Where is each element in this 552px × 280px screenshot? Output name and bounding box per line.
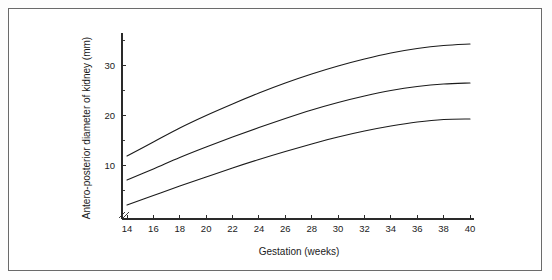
y-tick-label: 20 bbox=[104, 110, 115, 121]
chart-curves bbox=[127, 44, 470, 205]
chart-axes bbox=[119, 33, 474, 219]
x-tick-label: 16 bbox=[148, 223, 159, 234]
x-tick-label: 40 bbox=[465, 223, 476, 234]
figure-canvas: 1416182022242628303234363840102030 Gesta… bbox=[0, 0, 552, 280]
y-tick-label: 30 bbox=[104, 60, 115, 71]
x-tick-label: 14 bbox=[122, 223, 133, 234]
chart-curve bbox=[127, 119, 470, 205]
x-axis-title: Gestation (weeks) bbox=[259, 246, 340, 257]
chart-curve bbox=[127, 44, 470, 156]
chart-plot: 1416182022242628303234363840102030 Gesta… bbox=[0, 0, 552, 280]
x-tick-label: 22 bbox=[227, 223, 238, 234]
x-tick-label: 34 bbox=[386, 223, 397, 234]
x-tick-label: 32 bbox=[359, 223, 370, 234]
x-tick-label: 26 bbox=[280, 223, 291, 234]
chart-curve bbox=[127, 83, 470, 180]
y-axis-title: Antero-posterior diameter of kidney (mm) bbox=[81, 37, 92, 219]
x-tick-label: 18 bbox=[174, 223, 185, 234]
x-tick-label: 28 bbox=[306, 223, 317, 234]
x-tick-label: 30 bbox=[333, 223, 344, 234]
x-tick-label: 20 bbox=[201, 223, 212, 234]
x-tick-label: 38 bbox=[438, 223, 449, 234]
y-tick-label: 10 bbox=[104, 160, 115, 171]
x-tick-label: 36 bbox=[412, 223, 423, 234]
x-tick-label: 24 bbox=[254, 223, 265, 234]
